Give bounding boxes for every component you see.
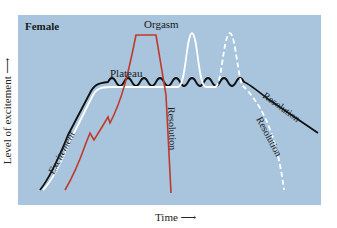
x-axis-arrow-icon: ⟶: [181, 211, 197, 223]
x-axis-label-text: Time: [155, 211, 178, 223]
plot-panel: Female Orgasm Plateau Excitement Resolut…: [18, 15, 321, 205]
black-response-curve: [40, 78, 318, 190]
x-axis-label: Time ⟶: [155, 211, 196, 224]
y-axis-arrow-icon: ⟶: [1, 58, 13, 74]
y-axis-label: Level of excitement ⟶: [1, 51, 15, 171]
red-resolution-label: Resolution: [166, 107, 179, 151]
y-axis-label-text: Level of excitement: [1, 76, 13, 164]
red-response-curve: [65, 35, 171, 193]
plot-canvas: Female Orgasm Plateau Excitement Resolut…: [18, 15, 321, 205]
excitement-label: Excitement: [46, 128, 78, 176]
orgasm-label: Orgasm: [144, 18, 179, 30]
white-response-curve: [43, 33, 215, 190]
white-dashed-second-orgasm: [215, 33, 284, 190]
plateau-label: Plateau: [110, 67, 143, 79]
panel-title: Female: [25, 20, 59, 32]
white-resolution-label: Resolution: [254, 115, 284, 158]
